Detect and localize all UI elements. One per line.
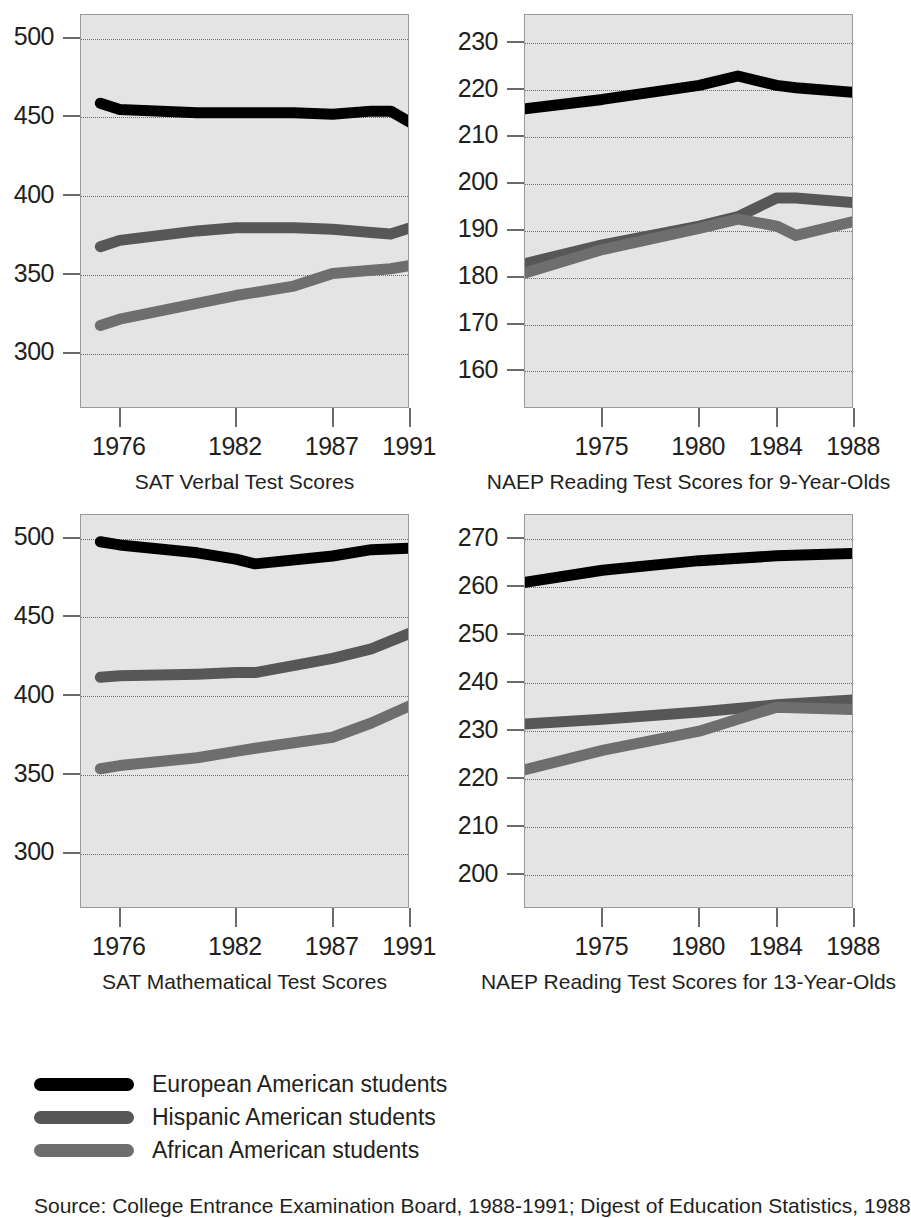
plot-area (524, 14, 853, 408)
y-axis-tick-label: 220 (458, 76, 498, 101)
x-axis-tick-mark (409, 908, 411, 927)
x-axis-tick-mark (698, 908, 700, 927)
legend-item: Hispanic American students (34, 1101, 447, 1134)
y-axis-tick-label: 170 (458, 310, 498, 335)
series-line (100, 103, 409, 122)
x-axis-tick-label: 1984 (749, 432, 803, 461)
plot-area (524, 514, 853, 908)
y-axis-tick-label: 230 (458, 717, 498, 742)
series-layer (81, 15, 409, 408)
y-axis-tick-label: 250 (458, 621, 498, 646)
y-axis-tick-mark (507, 369, 524, 371)
y-axis-tick-mark (63, 115, 80, 117)
series-line (100, 266, 409, 326)
series-layer (81, 515, 409, 908)
y-axis-tick-label: 400 (14, 182, 54, 207)
y-axis-tick-label: 200 (458, 861, 498, 886)
x-axis-tick-mark (698, 408, 700, 427)
y-axis-tick-mark (63, 37, 80, 39)
legend-label-european: European American students (152, 1071, 447, 1098)
x-axis-tick-label: 1980 (671, 932, 725, 961)
x-axis-tick-label: 1984 (749, 932, 803, 961)
y-axis-tick-label: 500 (14, 24, 54, 49)
legend-item: European American students (34, 1068, 447, 1101)
x-axis-tick-label: 1982 (208, 932, 262, 961)
series-layer (525, 515, 853, 908)
y-axis-tick-label: 160 (458, 357, 498, 382)
chart-panel-sat-math: 3003504004505001976198219871991SAT Mathe… (0, 500, 445, 1000)
y-axis-tick-label: 300 (14, 839, 54, 864)
y-axis-tick-mark (63, 352, 80, 354)
series-layer (525, 15, 853, 408)
y-axis-tick-mark (507, 229, 524, 231)
figure-legend: European American students Hispanic Amer… (34, 1068, 447, 1167)
y-axis-tick-mark (507, 135, 524, 137)
chart-panel-naep-reading-9: 1601701801902002102202301975198019841988… (444, 0, 889, 500)
y-axis-tick-mark (507, 41, 524, 43)
y-axis-tick-mark (507, 323, 524, 325)
y-axis-tick-label: 210 (458, 122, 498, 147)
y-axis-tick-mark (507, 873, 524, 875)
y-axis-tick-mark (507, 585, 524, 587)
y-axis-tick-mark (63, 773, 80, 775)
y-axis-tick-label: 180 (458, 263, 498, 288)
plot-area (80, 14, 409, 408)
y-axis-tick-mark (507, 276, 524, 278)
y-axis-tick-mark (63, 694, 80, 696)
legend-item: African American students (34, 1134, 447, 1167)
y-axis-tick-mark (63, 537, 80, 539)
x-axis-tick-label: 1980 (671, 432, 725, 461)
chart-caption: SAT Mathematical Test Scores (102, 970, 387, 994)
x-axis-tick-label: 1982 (208, 432, 262, 461)
y-axis-tick-mark (63, 194, 80, 196)
x-axis-tick-label: 1987 (305, 932, 359, 961)
y-axis-tick-label: 210 (458, 813, 498, 838)
series-line (100, 542, 409, 564)
y-axis-tick-mark (63, 852, 80, 854)
series-line (100, 633, 409, 677)
x-axis-tick-label: 1976 (92, 432, 146, 461)
x-axis-tick-mark (853, 908, 855, 927)
plot-area (80, 514, 409, 908)
source-note: Source: College Entrance Examination Boa… (34, 1194, 911, 1218)
x-axis-tick-label: 1991 (382, 432, 436, 461)
x-axis-tick-mark (332, 908, 334, 927)
x-axis-tick-mark (601, 908, 603, 927)
y-axis-tick-label: 190 (458, 216, 498, 241)
x-axis-tick-mark (601, 408, 603, 427)
y-axis-tick-label: 350 (14, 261, 54, 286)
y-axis-tick-mark (507, 777, 524, 779)
y-axis-tick-mark (507, 729, 524, 731)
chart-caption: NAEP Reading Test Scores for 13-Year-Old… (481, 970, 896, 994)
legend-label-hispanic: Hispanic American students (152, 1104, 436, 1131)
x-axis-tick-label: 1988 (826, 432, 880, 461)
y-axis-tick-label: 230 (458, 29, 498, 54)
y-axis-tick-label: 450 (14, 603, 54, 628)
x-axis-tick-label: 1988 (826, 932, 880, 961)
series-line (525, 219, 853, 273)
y-axis-tick-label: 240 (458, 669, 498, 694)
x-axis-tick-mark (235, 908, 237, 927)
chart-panel-naep-reading-13: 2002102202302402502602701975198019841988… (444, 500, 889, 1000)
y-axis-tick-label: 300 (14, 339, 54, 364)
x-axis-tick-mark (776, 908, 778, 927)
y-axis-tick-label: 450 (14, 103, 54, 128)
x-axis-tick-label: 1976 (92, 932, 146, 961)
x-axis-tick-mark (332, 408, 334, 427)
x-axis-tick-label: 1987 (305, 432, 359, 461)
y-axis-tick-label: 350 (14, 761, 54, 786)
x-axis-tick-mark (409, 408, 411, 427)
legend-swatch-european (34, 1078, 134, 1091)
series-line (525, 553, 853, 582)
y-axis-tick-label: 400 (14, 682, 54, 707)
x-axis-tick-label: 1975 (575, 932, 629, 961)
y-axis-tick-label: 220 (458, 765, 498, 790)
chart-caption: NAEP Reading Test Scores for 9-Year-Olds (487, 470, 890, 494)
x-axis-tick-mark (235, 408, 237, 427)
legend-swatch-african (34, 1144, 134, 1157)
x-axis-tick-mark (853, 408, 855, 427)
y-axis-tick-mark (63, 273, 80, 275)
legend-label-african: African American students (152, 1137, 419, 1164)
y-axis-tick-label: 270 (458, 525, 498, 550)
x-axis-tick-mark (119, 908, 121, 927)
